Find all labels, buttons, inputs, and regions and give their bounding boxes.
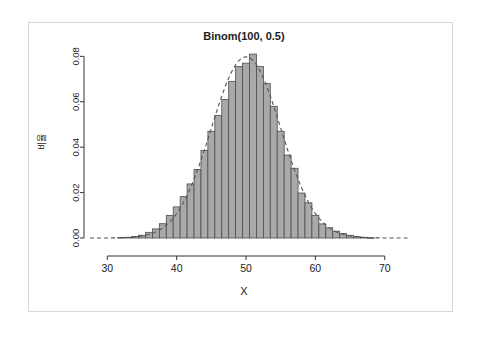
x-axis-tick-label: 70 [379,262,391,274]
x-axis-title: X [240,285,248,297]
histogram-bar [298,193,305,238]
y-axis-tick-label: 0.04 [70,138,81,157]
histogram-bar [229,81,236,238]
histogram-bar [208,131,215,238]
histogram-bars [118,54,375,238]
x-axis-tick-label: 30 [101,262,113,274]
histogram-bar [319,224,326,238]
histogram-bar [291,168,298,238]
y-axis-tick-label: 0.06 [70,93,81,112]
x-axis-tick-label: 40 [171,262,183,274]
histogram-bar [250,54,257,238]
histogram-bar [256,67,263,238]
y-axis-tick-label: 0.00 [70,229,81,248]
plot-area: Binom(100, 0.5) 0.000.020.040.060.08 304… [0,0,479,338]
histogram-bar [305,203,312,238]
y-axis-tick-label: 0.02 [70,183,81,202]
histogram-bar [284,155,291,238]
binomial-histogram-chart: Binom(100, 0.5) 0.000.020.040.060.08 304… [0,0,479,338]
x-axis-tick-label: 50 [240,262,252,274]
histogram-bar [173,207,180,238]
histogram-bar [263,84,270,238]
x-axis-tick-label: 60 [310,262,322,274]
histogram-bar [222,99,229,238]
y-axis-tick-label: 0.08 [70,47,81,65]
histogram-bar [243,63,250,238]
y-axis: 0.000.020.040.060.08 [70,47,84,247]
chart-title: Binom(100, 0.5) [203,30,285,42]
histogram-bar [277,131,284,238]
histogram-bar [236,67,243,238]
x-axis: 3040506070 [101,256,390,274]
y-axis-title: 비율 [37,134,47,150]
screenshot-root: Binom(100, 0.5) 0.000.020.040.060.08 304… [0,0,479,338]
histogram-bar [215,115,222,238]
histogram-bar [270,106,277,238]
histogram-bar [312,215,319,238]
histogram-bar [194,169,201,238]
histogram-bar [201,150,208,238]
